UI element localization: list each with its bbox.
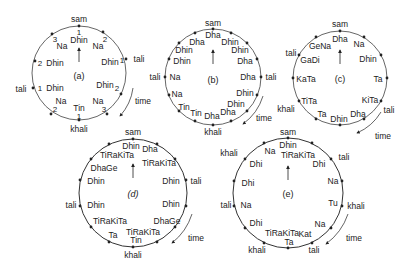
beat-number: 2: [115, 84, 120, 93]
diagram-e: (e) Dhin TiRaKiTa Dhi Na Tu Na Kat Ta Ti…: [220, 127, 365, 255]
beat-label: TiRaKiTa: [281, 150, 315, 160]
beat-label: Dhin: [236, 88, 254, 98]
diagram-c: (c) Dha Na Dhin Ta KiTa Dha Dhin Ta TiTa…: [277, 19, 394, 141]
beat-label: Dhin: [173, 56, 191, 66]
beat-label: Dhin: [101, 57, 119, 67]
beat-label: Na: [328, 176, 339, 186]
beat-label: Na: [265, 146, 276, 156]
beat-label: Dhin: [96, 80, 114, 90]
marker-label: khali: [248, 245, 266, 255]
marker-label: tali: [191, 176, 202, 186]
tala-cycle-diagrams: (a) 1 Dhin Na 2 Dhin 1 Dhin 2 Na 3 Tin 1…: [0, 0, 412, 271]
beat-label: Na: [315, 219, 326, 229]
beat-label: TiRaKiTa: [265, 228, 299, 238]
beat-number: 1: [38, 84, 43, 93]
beat-label: TiTa: [301, 96, 317, 106]
beat-label: Dhin: [162, 199, 180, 209]
beat-number: 2: [103, 35, 108, 44]
beat-label: Dha: [142, 144, 158, 154]
beat-label: Dhin: [231, 45, 249, 55]
diagram-caption: (e): [283, 189, 294, 199]
beat-label: Dhin: [46, 58, 64, 68]
beat-label: Na: [241, 200, 252, 210]
beat-label: Dhin: [70, 35, 88, 45]
diagram-caption: (b): [208, 75, 219, 85]
beat-label: Tin: [130, 235, 142, 245]
beat-label: Ta: [109, 230, 118, 240]
beat-label: Kat: [299, 229, 312, 239]
beat-label: Dha: [189, 37, 205, 47]
beat-label: GaDi: [300, 55, 319, 65]
marker-label: tali: [221, 200, 232, 210]
time-label: time: [135, 96, 151, 106]
beat-label: Na: [354, 39, 365, 49]
beat-label: Dha: [205, 30, 221, 40]
beat-label: Dhi: [242, 178, 255, 188]
beat-label: Dhin: [162, 176, 180, 186]
marker-label: tali: [309, 245, 320, 255]
marker-label: khali: [124, 250, 142, 260]
beat-number: 3: [102, 105, 107, 114]
beat-label: Na: [57, 41, 68, 51]
beat-label: Dha: [240, 72, 256, 82]
beat-label: Tin: [190, 108, 202, 118]
beat-label: DhaGe: [91, 163, 118, 173]
beat-label: KiTa: [362, 95, 379, 105]
marker-label: sam: [280, 127, 296, 137]
marker-label: tali: [16, 84, 27, 94]
beat-label: Dhi: [313, 159, 326, 169]
time-label: time: [346, 233, 362, 243]
beat-label: Dhin: [87, 176, 105, 186]
beat-label: Dha: [220, 107, 236, 117]
beat-number: 1: [120, 56, 125, 65]
beat-label: Tu: [328, 198, 338, 208]
beat-label: Na: [170, 72, 181, 82]
marker-label: tali: [339, 152, 350, 162]
marker-label: sam: [205, 18, 221, 28]
beat-label: Dhi: [250, 159, 263, 169]
beat-number: 2: [53, 105, 58, 114]
beat-label: Dhin: [87, 200, 105, 210]
beat-label: Dhin: [46, 83, 64, 93]
beat-label: Ta: [318, 109, 327, 119]
marker-label: khali: [70, 124, 88, 134]
beat-number: 2: [38, 59, 43, 68]
diagram-caption: (c): [335, 74, 346, 84]
marker-label: tali: [266, 72, 277, 82]
time-label: time: [375, 131, 391, 141]
marker-label: khali: [347, 201, 365, 211]
beat-label: Dhin: [359, 54, 377, 64]
beat-label: Ta: [374, 74, 383, 84]
marker-label: sam: [71, 14, 87, 24]
marker-label: tali: [286, 48, 297, 58]
marker-label: tali: [150, 72, 161, 82]
marker-label: sam: [332, 19, 348, 29]
diagram-caption: (a): [74, 71, 85, 81]
marker-label: khali: [204, 127, 222, 137]
time-label: time: [256, 113, 272, 123]
marker-label: khali: [277, 104, 295, 114]
diagram-caption: (d): [128, 189, 139, 199]
beat-label: Tin: [178, 102, 190, 112]
marker-label: sam: [125, 127, 141, 137]
beat-label: KaTa: [296, 74, 316, 84]
marker-label: tali: [134, 54, 145, 64]
beat-label: Ta: [285, 237, 294, 247]
beat-label: TiRaKiTa: [142, 158, 176, 168]
time-label: time: [188, 233, 204, 243]
diagram-b: (b) Dha Dhin Dhin Dha Dha Dhin Dhin Dha …: [150, 18, 277, 137]
marker-label: tali: [384, 105, 395, 115]
marker-label: tali: [66, 200, 77, 210]
beat-label: Dha: [350, 109, 366, 119]
beat-label: DhaGe: [154, 216, 181, 226]
beat-label: GeNa: [309, 41, 331, 51]
beat-label: Dhin: [279, 140, 297, 150]
beat-label: TiRaKiTa: [100, 150, 134, 160]
beat-label: Na: [172, 89, 183, 99]
beat-label: Dhi: [250, 218, 263, 228]
beat-label: Dha: [332, 34, 348, 44]
beat-number: 1: [77, 112, 82, 121]
diagram-d: (d) Dhin Dha TiRaKiTa Dhin Dhin DhaGe Ti…: [66, 127, 205, 260]
beat-label: Dha: [237, 56, 253, 66]
marker-label: khali: [220, 148, 238, 158]
